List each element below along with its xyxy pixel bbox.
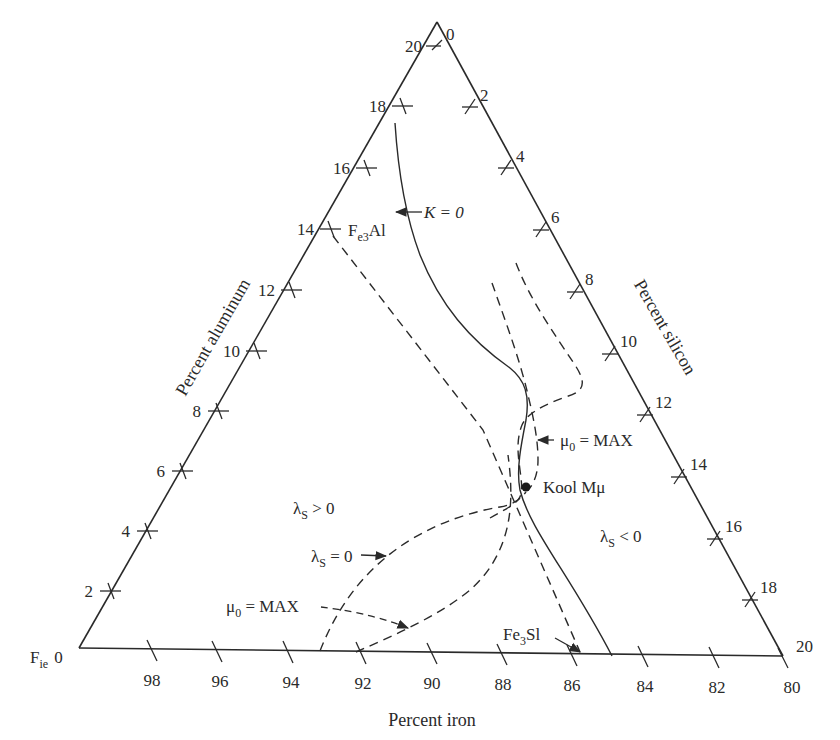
tick-label: 6 <box>157 462 166 481</box>
tick-label: 10 <box>620 332 637 351</box>
tick-label: 88 <box>495 675 512 694</box>
left-axis-tick-labels: 2 4 6 8 10 12 14 16 18 20 <box>85 37 423 601</box>
mu-max-lower-label: μ0 = MAX <box>226 597 299 620</box>
ternary-diagram: 98 96 94 92 90 88 86 84 82 80 Percent ir… <box>0 0 840 740</box>
tick-label: 8 <box>585 270 594 289</box>
tick-label: 2 <box>85 582 94 601</box>
fe3si-arrow <box>555 638 580 652</box>
corner-label-fe: Fie0 <box>30 648 63 671</box>
lambda-zero-label: λS = 0 <box>311 547 353 570</box>
tick-label: 86 <box>564 676 581 695</box>
tick-label: 94 <box>283 673 301 692</box>
left-axis-title: Percent aluminum <box>171 275 254 399</box>
bottom-axis-ticks <box>147 640 788 668</box>
bottom-axis-title: Percent iron <box>388 710 475 730</box>
tick-label: 98 <box>144 671 161 690</box>
tick-label: 16 <box>333 159 350 178</box>
k-zero-label: K = 0 <box>423 203 464 222</box>
fe3al-fe3si-line <box>333 236 580 652</box>
lambda-positive-label: λS > 0 <box>293 499 335 522</box>
kool-mu-label: Kool Mμ <box>543 478 605 497</box>
kool-mu-point <box>522 483 531 492</box>
tick-label: 4 <box>122 522 131 541</box>
tick-label: 84 <box>637 677 655 696</box>
tick-label: 80 <box>784 678 801 697</box>
tick-label: 18 <box>369 97 386 116</box>
lambda-zero-arrow <box>361 555 386 556</box>
right-axis-line <box>437 22 783 656</box>
fe3al-label: Fe3Al <box>348 221 386 244</box>
tick-label: 6 <box>551 208 560 227</box>
tick-label: 0 <box>446 25 455 44</box>
mu-max-lower-curve <box>356 455 511 652</box>
mu-max-upper-inner-curve <box>492 283 538 490</box>
tick-label: 10 <box>223 342 240 361</box>
tick-label: 16 <box>725 517 742 536</box>
tick-label: 14 <box>297 220 315 239</box>
bottom-axis-tick-labels: 98 96 94 92 90 88 86 84 82 80 <box>144 671 801 697</box>
tick-label: 20 <box>405 37 422 56</box>
mu-max-lower-arrow <box>321 607 408 628</box>
right-axis-tick-labels: 0 2 4 6 8 10 12 14 16 18 <box>446 25 777 597</box>
tick-label: 96 <box>212 672 229 691</box>
lambda-negative-label: λS < 0 <box>600 527 642 550</box>
tick-label: 18 <box>760 578 777 597</box>
fe3si-label: Fe3Sl <box>503 625 540 648</box>
tick-label: 8 <box>193 402 202 421</box>
tick-label: 4 <box>516 147 525 166</box>
tick-label: 12 <box>655 393 672 412</box>
tick-label: 82 <box>709 678 726 697</box>
corner-label-20: 20 <box>796 637 813 656</box>
tick-label: 92 <box>355 674 372 693</box>
left-axis-ticks <box>100 46 441 599</box>
tick-label: 2 <box>480 86 489 105</box>
tick-label: 14 <box>690 455 708 474</box>
tick-label: 90 <box>424 674 441 693</box>
right-axis-title: Percent silicon <box>630 276 701 378</box>
mu-max-upper-label: μ0 = MAX <box>560 431 633 454</box>
tick-label: 12 <box>258 281 275 300</box>
